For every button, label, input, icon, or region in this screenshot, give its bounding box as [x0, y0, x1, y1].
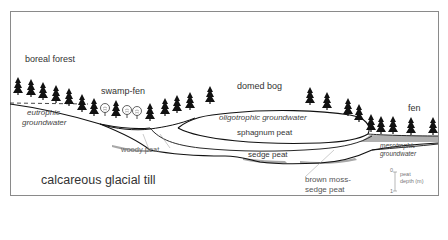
scale-tick-1: 1 [390, 189, 393, 195]
label-fen: fen [408, 104, 421, 113]
bog-edge-trees [305, 87, 376, 132]
label-domed-bog: domed bog [237, 82, 282, 91]
label-sphagnum-peat: sphagnum peat [237, 129, 292, 137]
label-swamp-fen: swamp-fen [101, 87, 145, 96]
label-eutrophic: eutrophic [27, 109, 60, 117]
label-oligotrophic-groundwater: oligotrophic groundwater [219, 114, 307, 122]
label-calcareous-glacial-till: calcareous glacial till [41, 174, 156, 187]
water-table-dashed [10, 103, 88, 104]
scale-tick-0: 0 [390, 168, 393, 174]
label-sedge-peat: sedge peat [248, 151, 288, 159]
label-woody-peat: woody peat [121, 146, 159, 154]
scale-label-peat: peat [400, 172, 411, 178]
label-boreal-forest: boreal forest [25, 55, 75, 64]
label-eutrophic-groundwater: groundwater [22, 119, 66, 127]
label-mesotrophic: mesotrophic [380, 143, 415, 150]
fen-trees [376, 116, 438, 135]
label-brown-moss-sedge-peat: sedge peat [305, 186, 345, 194]
peat-depth-scale [393, 172, 397, 191]
label-brown-moss: brown moss- [305, 176, 351, 184]
label-mesotrophic-groundwater: groundwater [380, 151, 416, 158]
scale-label-depth: depth (m) [400, 179, 424, 185]
